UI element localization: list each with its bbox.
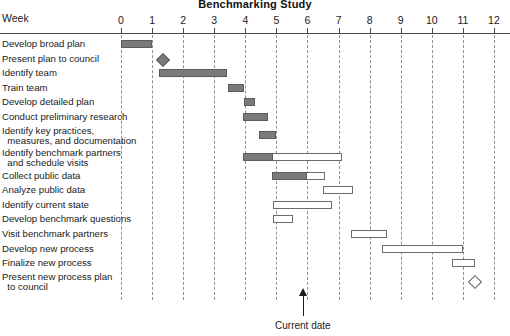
x-axis-tick-label-6: 6 <box>305 14 311 26</box>
gridline-week-9 <box>401 35 402 300</box>
gridline-week-6 <box>307 35 308 300</box>
task-label: Present new process plan to council <box>2 272 112 292</box>
task-label: Develop detailed plan <box>2 97 94 107</box>
milestone-marker[interactable] <box>468 275 482 289</box>
x-axis-line <box>0 33 510 34</box>
gantt-chart: Benchmarking Study Week 0123456789101112… <box>0 0 510 336</box>
task-label: Finalize new process <box>2 258 92 268</box>
task-bar-progress <box>272 172 308 180</box>
gridline-week-5 <box>276 35 277 300</box>
task-bar-progress <box>243 113 268 121</box>
gridline-week-4 <box>245 35 246 300</box>
x-axis-tick-label-4: 4 <box>242 14 248 26</box>
task-bar-progress <box>259 131 276 139</box>
task-label: Present plan to council <box>2 54 99 64</box>
x-axis-tick-label-10: 10 <box>426 14 438 26</box>
x-axis-tick-label-9: 9 <box>398 14 404 26</box>
task-label: Identify benchmark partners and schedule… <box>2 148 121 168</box>
task-label: Conduct preliminary research <box>2 112 127 122</box>
chart-title: Benchmarking Study <box>0 0 510 10</box>
task-label: Collect public data <box>2 171 80 181</box>
x-axis-tick-label-5: 5 <box>273 14 279 26</box>
task-bar-progress <box>244 98 255 106</box>
current-date-line <box>303 294 304 316</box>
current-date-arrow-icon <box>299 288 307 296</box>
task-label: Develop broad plan <box>2 39 85 49</box>
x-axis-tick-label-7: 7 <box>336 14 342 26</box>
x-axis-tick-label-12: 12 <box>488 14 500 26</box>
task-label: Identify key practices, measures, and do… <box>2 126 136 146</box>
task-bar[interactable] <box>323 186 353 194</box>
task-label: Develop benchmark questions <box>2 214 131 224</box>
task-bar-progress <box>243 153 273 161</box>
task-label: Train team <box>2 83 48 93</box>
gridline-week-12 <box>494 35 495 300</box>
milestone-marker[interactable] <box>156 53 170 67</box>
task-bar[interactable] <box>273 215 293 223</box>
x-axis-tick-label-8: 8 <box>367 14 373 26</box>
task-bar[interactable] <box>452 259 475 267</box>
task-bar[interactable] <box>382 245 463 253</box>
gridline-week-7 <box>339 35 340 300</box>
gridline-week-0 <box>121 35 122 300</box>
x-axis-tick-label-2: 2 <box>180 14 186 26</box>
current-date-label: Current date <box>275 320 331 331</box>
task-label: Develop new process <box>2 244 94 254</box>
task-bar-progress <box>228 84 244 92</box>
x-axis-tick-label-11: 11 <box>457 14 468 26</box>
task-bar-progress <box>159 69 227 77</box>
x-axis-tick-label-3: 3 <box>211 14 217 26</box>
task-bar-progress <box>121 40 152 48</box>
axis-title-week: Week <box>2 12 29 24</box>
gridline-week-10 <box>432 35 433 300</box>
task-label: Identify current state <box>2 200 89 210</box>
task-bar[interactable] <box>273 201 333 209</box>
task-label: Analyze public data <box>2 185 85 195</box>
gridline-week-8 <box>370 35 371 300</box>
x-axis-tick-label-0: 0 <box>118 14 124 26</box>
task-bar[interactable] <box>351 230 387 238</box>
task-label: Identify team <box>2 68 57 78</box>
gridline-week-1 <box>152 35 153 300</box>
task-label: Visit benchmark partners <box>2 229 108 239</box>
x-axis-tick-label-1: 1 <box>149 14 155 26</box>
